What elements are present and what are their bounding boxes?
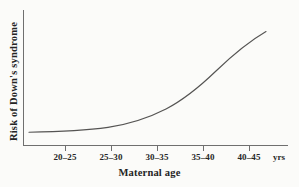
- x-axis-unit-label: yrs: [273, 152, 285, 162]
- x-tick-label-2: 30–35: [146, 152, 169, 162]
- x-tick-label-4: 40–45: [238, 152, 261, 162]
- x-tick-label-0: 20–25: [54, 152, 77, 162]
- chart-container: 20–25 25–30 30–35 35–40 40–45 yrs Matern…: [0, 0, 299, 187]
- risk-curve: [29, 32, 266, 133]
- y-axis-title: Risk of Down's syndrome: [8, 17, 19, 147]
- x-tick-label-3: 35–40: [192, 152, 215, 162]
- x-axis-title: Maternal age: [0, 167, 299, 178]
- x-tick-label-1: 25–30: [100, 152, 123, 162]
